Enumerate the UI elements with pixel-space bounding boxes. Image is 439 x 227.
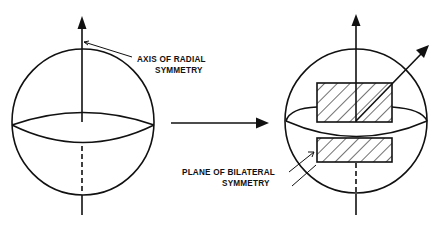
label-plane-line2: SYMMETRY: [222, 179, 270, 188]
arrow-up-icon: [352, 14, 361, 26]
label-plane-line1: PLANE OF BILATERAL: [182, 168, 275, 177]
arrow-up-icon: [78, 16, 87, 29]
equator-back-left: [286, 107, 317, 121]
bilateral-sphere: PLANE OF BILATERAL SYMMETRY: [182, 14, 429, 215]
label-axis-line2: SYMMETRY: [155, 66, 203, 75]
radial-sphere: AXIS OF RADIAL SYMMETRY: [12, 16, 206, 215]
axis-of-radial-symmetry: [78, 16, 87, 215]
equator-back-right: [392, 107, 427, 121]
equator-front: [12, 125, 154, 143]
upper-block: [317, 83, 392, 122]
arrow-right-icon: [256, 118, 269, 129]
equator-front: [286, 121, 427, 137]
leader-line-2: [292, 165, 316, 186]
transition-arrow: [171, 118, 269, 129]
lower-block: [317, 138, 392, 162]
sphere-outline: [12, 49, 154, 195]
equator-back: [12, 113, 154, 126]
label-axis-line1: AXIS OF RADIAL: [137, 55, 206, 64]
symmetry-diagram: AXIS OF RADIAL SYMMETRY: [0, 0, 439, 227]
